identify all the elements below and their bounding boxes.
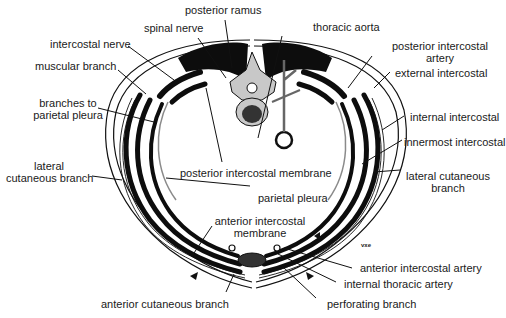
label-posterior-intercostal-membrane: posterior intercostal membrane bbox=[180, 167, 332, 179]
label-line-2: artery bbox=[378, 52, 502, 64]
label-line-2: cutaneous branch bbox=[6, 172, 92, 184]
label-internal-thoracic-artery: internal thoracic artery bbox=[344, 278, 453, 290]
label-intercostal-nerve: intercostal nerve bbox=[50, 38, 131, 50]
label-thoracic-aorta: thoracic aorta bbox=[313, 21, 380, 33]
label-external-intercostal: external intercostal bbox=[395, 67, 487, 79]
label-line-1: lateral bbox=[6, 160, 92, 172]
label-innermost-intercostal: innermost intercostal bbox=[404, 136, 506, 148]
label-line-1: posterior intercostal bbox=[378, 40, 502, 52]
label-parietal-pleura: parietal pleura bbox=[258, 192, 328, 204]
label-spinal-nerve: spinal nerve bbox=[144, 22, 203, 34]
label-muscular-branch: muscular branch bbox=[35, 60, 116, 72]
label-internal-intercostal: internal intercostal bbox=[410, 111, 499, 123]
label-line-2: branch bbox=[406, 182, 490, 194]
label-lateral-cutaneous-branch-left: lateral cutaneous branch bbox=[6, 160, 92, 184]
label-branches-to-parietal-pleura: branches to parietal pleura bbox=[32, 97, 104, 121]
label-line-1: lateral cutaneous bbox=[406, 170, 490, 182]
label-posterior-intercostal-artery: posterior intercostal artery bbox=[378, 40, 502, 64]
label-anterior-intercostal-artery: anterior intercostal artery bbox=[360, 262, 482, 274]
label-line-2: parietal pleura bbox=[32, 109, 104, 121]
thoracic-aorta-vessel bbox=[276, 132, 292, 148]
label-line-1: anterior intercostal bbox=[210, 215, 310, 227]
label-anterior-intercostal-membrane: anterior intercostal membrane bbox=[210, 215, 310, 239]
label-posterior-ramus: posterior ramus bbox=[185, 4, 261, 16]
label-anterior-cutaneous-branch: anterior cutaneous branch bbox=[101, 298, 229, 310]
label-perforating-branch: perforating branch bbox=[327, 298, 416, 310]
label-line-1: branches to bbox=[32, 97, 104, 109]
label-line-2: membrane bbox=[210, 227, 310, 239]
label-vxe: vxe bbox=[361, 239, 371, 251]
label-lateral-cutaneous-branch-right: lateral cutaneous branch bbox=[406, 170, 490, 194]
